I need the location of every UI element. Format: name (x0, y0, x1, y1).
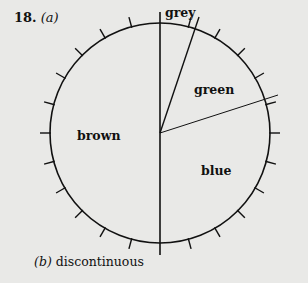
green-blue-divider (160, 95, 278, 133)
pie-diagram (0, 0, 308, 283)
grey-green-divider (160, 17, 199, 133)
sector-label-grey: grey (165, 5, 196, 20)
sector-label-brown: brown (77, 128, 121, 143)
sector-label-green: green (194, 82, 234, 97)
sector-label-blue: blue (201, 163, 232, 178)
part-b-answer: (b) discontinuous (34, 254, 144, 269)
